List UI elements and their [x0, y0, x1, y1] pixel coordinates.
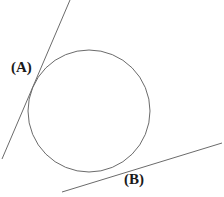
point-label-b: (B) — [124, 171, 144, 187]
geometry-figure: (A) (B) — [0, 0, 224, 197]
geometry-canvas — [0, 0, 224, 197]
point-label-a: (A) — [11, 59, 32, 75]
